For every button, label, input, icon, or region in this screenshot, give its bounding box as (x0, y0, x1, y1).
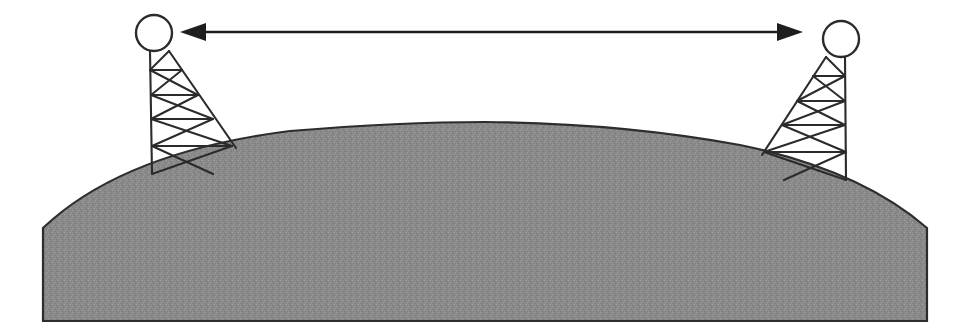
line-of-sight-diagram (0, 0, 963, 336)
left-tower-brace-4 (151, 95, 213, 119)
right-tower-brace-3 (813, 76, 845, 101)
left-tower (136, 15, 236, 174)
distance-arrow (180, 23, 803, 41)
antenna-dish-left-icon (136, 15, 172, 51)
right-tower (762, 21, 859, 180)
right-tower-brace-7 (782, 125, 846, 152)
diagram-canvas (0, 0, 963, 336)
antenna-dish-right-icon (823, 21, 859, 57)
arrow-head-right-icon (777, 23, 803, 41)
right-tower-brace-4 (782, 101, 845, 125)
right-tower-brace-6 (764, 125, 845, 152)
left-tower-brace-1 (150, 51, 169, 70)
arrow-head-left-icon (180, 23, 206, 41)
right-tower-brace-1 (826, 57, 845, 76)
